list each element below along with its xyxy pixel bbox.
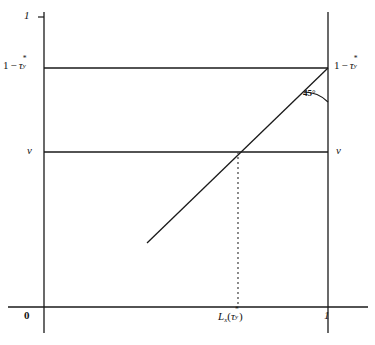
L-subscript-x: x xyxy=(224,316,227,323)
digit-one-right: 1 xyxy=(334,59,340,71)
minus-sign-left: − xyxy=(11,59,17,71)
tau-subscript-y-bottom: y xyxy=(235,314,238,321)
digit-one-left: 1 xyxy=(3,59,9,71)
diagram-canvas xyxy=(0,0,375,345)
tau-group-left: τ*y xyxy=(19,60,23,71)
paren-close: ) xyxy=(239,310,243,322)
tau-group-bottom: τ*y xyxy=(231,311,235,322)
figure-container: 1 1−τ*y v 0 1 Lx(τ*y) 1−τ*y v 45° xyxy=(0,0,375,345)
minus-sign-right: − xyxy=(342,59,348,71)
right-label-v: v xyxy=(336,145,341,156)
origin-label-zero: 0 xyxy=(24,310,30,321)
x-axis-label-lx-tau: Lx(τ*y) xyxy=(218,311,243,322)
tau-subscript-y-right: y xyxy=(354,63,357,70)
y-axis-label-v-left: v xyxy=(27,145,32,156)
tau-subscript-y-left: y xyxy=(23,63,26,70)
tau-group-right: τ*y xyxy=(350,60,354,71)
x-axis-label-one: 1 xyxy=(324,310,330,321)
y-axis-label-one-minus-tau-star-y: 1−τ*y xyxy=(3,60,23,71)
right-label-one-minus-tau-star-y: 1−τ*y xyxy=(334,60,354,71)
forty-five-degree-line xyxy=(147,68,328,243)
angle-label-45-degrees: 45° xyxy=(303,89,316,98)
y-axis-label-one: 1 xyxy=(24,10,30,21)
